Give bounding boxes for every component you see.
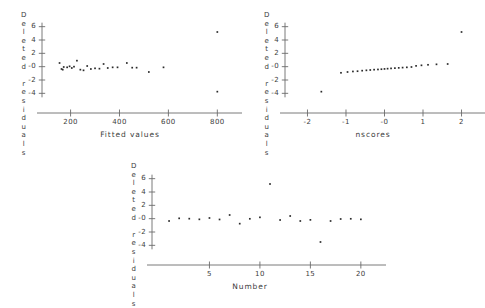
data-point xyxy=(411,66,413,68)
data-point xyxy=(369,69,371,71)
y-tick-label: -0 xyxy=(255,62,279,70)
data-point xyxy=(71,67,73,69)
data-point xyxy=(199,218,201,220)
data-point xyxy=(398,67,400,69)
data-point xyxy=(387,68,389,70)
data-point xyxy=(59,62,61,64)
y-tick-label: 2 xyxy=(122,201,146,209)
data-point xyxy=(377,69,379,71)
data-point xyxy=(347,71,349,73)
data-point xyxy=(69,65,71,67)
x-tick-label: 20 xyxy=(346,270,376,278)
panel-nscores: D e l e t e d r e s i d u a l s nscores … xyxy=(243,0,485,152)
data-point xyxy=(415,65,417,67)
data-point xyxy=(117,66,119,68)
x-axis-title-fitted: Fitted values xyxy=(60,130,200,139)
data-point xyxy=(461,31,463,33)
data-point xyxy=(168,220,170,222)
data-point xyxy=(126,62,128,64)
x-tick-label: 5 xyxy=(194,270,224,278)
data-point xyxy=(188,218,190,220)
y-tick-label: -0 xyxy=(12,62,36,70)
y-tick-label: -4 xyxy=(255,89,279,97)
data-point xyxy=(320,241,322,243)
data-point xyxy=(299,220,301,222)
x-tick-label: 2 xyxy=(447,118,477,126)
data-point xyxy=(427,64,429,66)
data-point xyxy=(360,218,362,220)
y-tick-label: -2 xyxy=(122,228,146,236)
data-point xyxy=(83,69,85,71)
y-tick-label: -4 xyxy=(122,241,146,249)
data-point xyxy=(209,217,211,219)
data-point xyxy=(90,68,92,70)
y-tick-label: -4 xyxy=(12,89,36,97)
data-point xyxy=(178,217,180,219)
data-point xyxy=(361,70,363,72)
data-point xyxy=(447,63,449,65)
y-tick-label: -0 xyxy=(122,214,146,222)
data-point xyxy=(357,70,359,72)
y-tick-label: 2 xyxy=(255,49,279,57)
data-point xyxy=(94,67,96,69)
data-point xyxy=(350,218,352,220)
data-point xyxy=(112,66,114,68)
data-point xyxy=(259,216,261,218)
y-tick-label: 4 xyxy=(122,188,146,196)
x-axis-title-number: Number xyxy=(185,282,315,291)
x-tick-label: 400 xyxy=(104,118,134,126)
data-point xyxy=(62,69,64,71)
data-point xyxy=(107,67,109,69)
y-tick-label: 6 xyxy=(12,22,36,30)
data-point xyxy=(352,71,354,73)
data-point xyxy=(163,66,165,68)
data-point xyxy=(381,68,383,70)
y-tick-label: 4 xyxy=(255,36,279,44)
scatter-canvas-number xyxy=(110,150,390,303)
y-tick-label: -2 xyxy=(12,76,36,84)
y-tick-label: 6 xyxy=(122,174,146,182)
data-point xyxy=(279,219,281,221)
y-tick-label: -2 xyxy=(255,76,279,84)
data-point xyxy=(384,68,386,70)
data-point xyxy=(99,68,101,70)
data-point xyxy=(229,214,231,216)
data-point xyxy=(394,67,396,69)
data-point xyxy=(148,71,150,73)
data-point xyxy=(63,66,65,68)
x-tick-label: 1 xyxy=(408,118,438,126)
panel-fitted-values: D e l e t e d r e s i d u a l s Fitted v… xyxy=(0,0,243,152)
y-tick-label: 4 xyxy=(12,36,36,44)
y-tick-label: 6 xyxy=(255,22,279,30)
data-point xyxy=(80,69,82,71)
data-point xyxy=(216,31,218,33)
data-point xyxy=(366,69,368,71)
data-point xyxy=(330,220,332,222)
x-tick-label: 10 xyxy=(245,270,275,278)
data-point xyxy=(373,69,375,71)
x-tick-label: 800 xyxy=(202,118,232,126)
data-point xyxy=(103,63,105,65)
data-point xyxy=(390,68,392,70)
data-point xyxy=(406,66,408,68)
x-tick-label: -0 xyxy=(370,118,400,126)
data-point xyxy=(76,60,78,62)
x-axis-title-nscores: nscores xyxy=(308,130,438,139)
x-tick-label: -1 xyxy=(331,118,361,126)
data-point xyxy=(340,72,342,74)
data-point xyxy=(66,66,68,68)
data-point xyxy=(216,91,218,93)
data-point xyxy=(249,218,251,220)
data-point xyxy=(239,223,241,225)
data-point xyxy=(86,65,88,67)
panel-number: D e l e t e d r e s i d u a l s Number 6… xyxy=(110,150,390,303)
data-point xyxy=(421,64,423,66)
data-point xyxy=(289,215,291,217)
data-point xyxy=(310,219,312,221)
data-point xyxy=(73,66,75,68)
x-tick-label: 200 xyxy=(56,118,86,126)
data-point xyxy=(219,219,221,221)
data-point xyxy=(340,218,342,220)
x-tick-label: 600 xyxy=(153,118,183,126)
data-point xyxy=(320,91,322,93)
